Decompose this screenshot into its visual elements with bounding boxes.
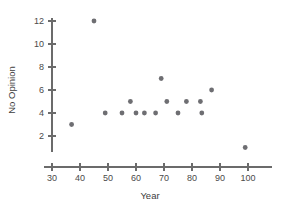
x-axis-title: Year — [140, 190, 159, 201]
data-point — [176, 111, 181, 116]
y-axis-ticks: 24681012 — [34, 16, 56, 141]
y-tick-label: 6 — [39, 85, 44, 95]
y-tick-label: 4 — [39, 108, 44, 118]
x-tick-label: 100 — [240, 173, 255, 183]
data-point — [142, 111, 147, 116]
data-points — [69, 19, 247, 150]
data-point — [184, 99, 189, 104]
data-point — [153, 111, 158, 116]
data-point — [209, 88, 214, 93]
x-tick-label: 70 — [159, 173, 169, 183]
data-point — [164, 99, 169, 104]
x-tick-label: 90 — [215, 173, 225, 183]
plot-svg: 30405060708090100 24681012 Year No Opini… — [0, 0, 293, 209]
y-tick-label: 2 — [39, 131, 44, 141]
data-point — [198, 99, 203, 104]
x-tick-label: 30 — [47, 173, 57, 183]
x-tick-label: 50 — [103, 173, 113, 183]
y-axis-title: No Opinion — [6, 66, 17, 114]
data-point — [134, 111, 139, 116]
data-point — [243, 145, 248, 150]
y-tick-label: 10 — [34, 39, 44, 49]
data-point — [92, 19, 97, 24]
y-tick-label: 12 — [34, 16, 44, 26]
data-point — [128, 99, 133, 104]
x-axis-ticks: 30405060708090100 — [47, 163, 256, 183]
y-tick-label: 8 — [39, 62, 44, 72]
data-point — [120, 111, 125, 116]
data-point — [69, 122, 74, 127]
scatter-plot-figure: 30405060708090100 24681012 Year No Opini… — [0, 0, 293, 209]
x-tick-label: 60 — [131, 173, 141, 183]
data-point — [103, 111, 108, 116]
x-tick-label: 80 — [187, 173, 197, 183]
data-point — [159, 76, 164, 81]
x-tick-label: 40 — [75, 173, 85, 183]
data-point — [199, 111, 204, 116]
